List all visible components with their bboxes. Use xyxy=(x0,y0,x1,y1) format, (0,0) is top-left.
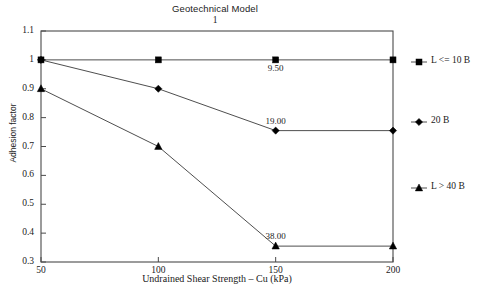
legend-marker-triangle xyxy=(415,184,422,191)
data-point-marker xyxy=(272,127,279,134)
plot-frame xyxy=(41,31,393,262)
legend-marker-square xyxy=(416,59,422,65)
series-1 xyxy=(38,57,396,63)
plot-area xyxy=(0,0,478,292)
chart-container: Geotechnical Model 1 Adhesion factor Und… xyxy=(0,0,478,292)
legend-marker-layer xyxy=(409,0,478,292)
data-point-marker xyxy=(273,57,279,63)
series-line xyxy=(41,60,393,131)
data-point-marker xyxy=(155,85,162,92)
data-point-marker xyxy=(272,242,279,249)
data-point-marker xyxy=(37,85,44,92)
data-point-marker xyxy=(389,242,396,249)
series-line xyxy=(41,89,393,246)
data-point-marker xyxy=(389,127,396,134)
data-point-marker xyxy=(390,57,396,63)
series-2 xyxy=(37,56,396,134)
data-point-marker xyxy=(155,143,162,150)
data-point-marker xyxy=(155,57,161,63)
legend-marker-diamond xyxy=(415,118,422,125)
